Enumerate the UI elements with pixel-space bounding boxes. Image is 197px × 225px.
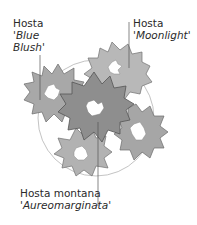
label-cultivar: 'Moonlight' (133, 29, 191, 41)
label-genus: Hosta (13, 17, 45, 29)
label-genus: Hosta (133, 17, 191, 29)
label-hosta-montana-aureomarginata: Hosta montana 'Aureomarginata' (20, 187, 111, 211)
label-hosta-moonlight: Hosta 'Moonlight' (133, 17, 191, 41)
label-hosta-blue-blush: Hosta 'Blue Blush' (13, 17, 45, 53)
label-cultivar-line1: 'Blue (13, 29, 45, 41)
label-cultivar-line2: Blush' (13, 41, 45, 53)
label-cultivar: 'Aureomarginata' (20, 199, 111, 211)
label-species: Hosta montana (20, 187, 111, 199)
